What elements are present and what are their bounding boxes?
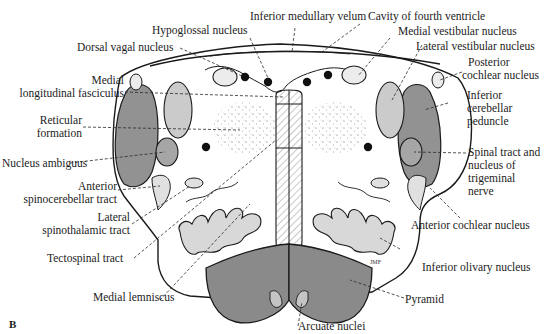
label-line: Inferior	[467, 89, 512, 102]
lateral-spinothalamic-left	[185, 178, 203, 188]
label-line: spinothalamic tract	[20, 224, 130, 237]
posterior-cochlear-nucleus-right	[432, 72, 444, 88]
dorsal-vagal-nucleus-dot-right	[324, 71, 332, 79]
label-line: Spinal tract and	[468, 146, 540, 159]
label-reticular-formation: Reticular formation	[10, 114, 82, 140]
label-line: longitudinal fasciculus	[6, 87, 124, 100]
label-dorsal-vagal-nucleus: Dorsal vagal nucleus	[77, 41, 173, 54]
label-nucleus-ambiguus: Nucleus ambiguus	[2, 157, 87, 170]
lateral-spinothalamic-right	[371, 178, 389, 188]
label-hypoglossal-nucleus: Hypoglossal nucleus	[152, 24, 248, 37]
panel-label: B	[9, 318, 16, 330]
label-line: Anterior	[4, 180, 117, 193]
label-lateral-spinothalamic-tract: Lateral spinothalamic tract	[20, 211, 130, 237]
lateral-vestibular-nucleus-right	[376, 82, 404, 138]
label-pyramid: Pyramid	[405, 293, 444, 306]
label-line: Reticular	[10, 114, 82, 127]
label-line: Lateral	[20, 211, 130, 224]
label-tectospinal-tract: Tectospinal tract	[47, 252, 123, 265]
spinal-trigeminal-nucleus-left	[156, 138, 178, 166]
hypoglossal-nucleus-dot-left	[264, 78, 272, 86]
label-anterior-spinocerebellar-tract: Anterior spinocerebellar tract	[4, 180, 117, 206]
label-line: trigeminal	[468, 172, 540, 185]
nucleus-ambiguus-dot-left	[202, 143, 210, 151]
dorsal-vagal-nucleus-dot-left	[241, 73, 249, 81]
label-arcuate-nuclei: Arcuate nuclei	[298, 320, 365, 333]
medial-vestibular-nucleus-right	[342, 66, 366, 84]
label-line: cerebellar	[467, 102, 512, 115]
label-inferior-cerebellar-peduncle: Inferior cerebellar peduncle	[467, 89, 512, 128]
label-line: formation	[10, 127, 82, 140]
label-medial-vestibular-nucleus: Medial vestibular nucleus	[398, 25, 517, 38]
label-medial-lemniscus: Medial lemniscus	[93, 291, 174, 304]
label-cavity-fourth-ventricle: Cavity of fourth ventricle	[368, 10, 485, 23]
label-line: spinocerebellar tract	[4, 193, 117, 206]
posterior-cochlear-nucleus-left	[130, 74, 142, 90]
label-lateral-vestibular-nucleus: Lateral vestibular nucleus	[416, 40, 535, 53]
label-line: Posterior	[462, 56, 539, 69]
label-inferior-olivary-nucleus: Inferior olivary nucleus	[422, 261, 531, 274]
reticular-formation-left	[213, 102, 277, 154]
label-anterior-cochlear-nucleus: Anterior cochlear nucleus	[411, 219, 530, 232]
label-line: peduncle	[467, 115, 512, 128]
hypoglossal-nucleus-dot-right	[303, 78, 311, 86]
artist-signature: JMF	[370, 259, 382, 265]
nucleus-ambiguus-dot-right	[364, 143, 372, 151]
reticular-formation-right	[303, 102, 367, 154]
label-line: nerve	[468, 185, 540, 198]
label-line: cochlear nucleus	[462, 69, 539, 82]
medial-vestibular-nucleus-left	[213, 68, 237, 86]
label-line: Medial	[6, 74, 124, 87]
label-inferior-medullary-velum: Inferior medullary velum	[250, 10, 366, 23]
label-medial-longitudinal-fasciculus: Medial longitudinal fasciculus	[6, 74, 124, 100]
label-spinal-tract-trigeminal: Spinal tract and nucleus of trigeminal n…	[468, 146, 540, 198]
lateral-vestibular-nucleus-left	[164, 82, 192, 138]
label-line: nucleus of	[468, 159, 540, 172]
label-posterior-cochlear-nucleus: Posterior cochlear nucleus	[462, 56, 539, 82]
